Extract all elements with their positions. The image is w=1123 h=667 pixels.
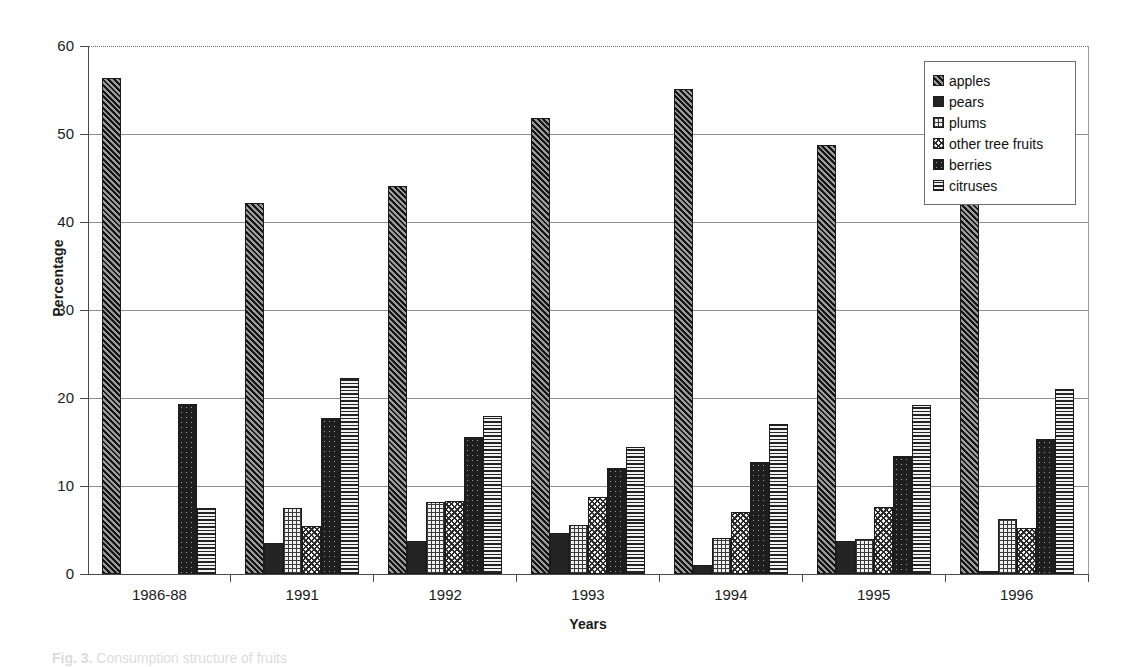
legend-label: citruses (949, 179, 997, 193)
bar-apples-1991[interactable] (245, 203, 264, 574)
bar-slot (588, 46, 607, 574)
bar-slot (102, 46, 121, 574)
bar-pears-1991[interactable] (264, 543, 283, 574)
x-tick-label: 1993 (517, 586, 660, 603)
legend-label: pears (949, 95, 984, 109)
bar-other-tree-fruits-1994[interactable] (731, 512, 750, 574)
bar-berries-1992[interactable] (464, 437, 483, 574)
bar-plums-1991[interactable] (283, 508, 302, 574)
bar-apples-1995[interactable] (817, 145, 836, 574)
bar-slot (445, 46, 464, 574)
bar-apples-1992[interactable] (388, 186, 407, 574)
legend-label: apples (949, 74, 990, 88)
bar-citruses-1991[interactable] (340, 378, 359, 574)
x-axis-title: Years (88, 616, 1088, 632)
legend-item-berries[interactable]: berries (933, 154, 1069, 175)
bar-berries-1994[interactable] (750, 462, 769, 574)
bar-other-tree-fruits-1992[interactable] (445, 501, 464, 574)
bar-slot (197, 46, 216, 574)
bar-slot (388, 46, 407, 574)
bar-slot (302, 46, 321, 574)
bar-berries-1996[interactable] (1036, 439, 1055, 574)
bar-plums-1993[interactable] (569, 525, 588, 574)
y-tick-mark-40 (80, 222, 88, 223)
bar-slot (817, 46, 836, 574)
bar-berries-1993[interactable] (607, 468, 626, 574)
bar-slot (483, 46, 502, 574)
bar-group (88, 46, 231, 574)
y-tick-mark-60 (80, 46, 88, 47)
bar-apples-1994[interactable] (674, 89, 693, 574)
bar-apples-1986-88[interactable] (102, 78, 121, 574)
bar-slot (855, 46, 874, 574)
bar-plums-1995[interactable] (855, 539, 874, 574)
bar-citruses-1993[interactable] (626, 447, 645, 574)
bar-pears-1992[interactable] (407, 541, 426, 574)
bar-slot (769, 46, 788, 574)
bar-slot (140, 46, 159, 574)
bar-apples-1993[interactable] (531, 118, 550, 574)
legend-item-plums[interactable]: plums (933, 112, 1069, 133)
bar-slot (712, 46, 731, 574)
bar-other-tree-fruits-1996[interactable] (1017, 528, 1036, 574)
y-tick-label: 50 (28, 126, 74, 141)
bar-other-tree-fruits-1993[interactable] (588, 497, 607, 574)
legend-item-pears[interactable]: pears (933, 91, 1069, 112)
legend-item-apples[interactable]: apples (933, 70, 1069, 91)
y-axis-title: Percentage (50, 198, 66, 358)
x-tick-mark (802, 574, 945, 582)
bar-slot (407, 46, 426, 574)
bar-slot (836, 46, 855, 574)
bar-citruses-1995[interactable] (912, 405, 931, 574)
y-tick-mark-20 (80, 398, 88, 399)
bar-apples-1996[interactable] (960, 157, 979, 574)
x-tick-label: 1986-88 (88, 586, 231, 603)
x-tick-mark (374, 574, 517, 582)
bar-slot (569, 46, 588, 574)
y-tick-mark-30 (80, 310, 88, 311)
legend-label: berries (949, 158, 992, 172)
bar-slot (693, 46, 712, 574)
legend-item-citruses[interactable]: citruses (933, 175, 1069, 196)
bar-berries-1995[interactable] (893, 456, 912, 574)
bar-pears-1993[interactable] (550, 533, 569, 574)
bar-slot (159, 46, 178, 574)
legend-swatch-icon (933, 117, 944, 128)
bar-other-tree-fruits-1995[interactable] (874, 507, 893, 574)
y-tick-mark-50 (80, 134, 88, 135)
legend-swatch-icon (933, 159, 944, 170)
y-tick-label: 0 (28, 566, 74, 581)
bar-slot (464, 46, 483, 574)
legend-swatch-icon (933, 180, 944, 191)
figure-caption: Fig. 3. Consumption structure of fruits (52, 650, 287, 666)
bar-slot (283, 46, 302, 574)
x-tick-label: 1995 (802, 586, 945, 603)
legend-swatch-icon (933, 138, 944, 149)
bar-berries-1991[interactable] (321, 418, 340, 574)
bar-slot (626, 46, 645, 574)
bar-other-tree-fruits-1991[interactable] (302, 526, 321, 574)
bar-pears-1995[interactable] (836, 541, 855, 574)
x-tick-mark (659, 574, 802, 582)
figure-container: 0102030405060 Percentage 1986-8819911992… (0, 0, 1123, 667)
legend-swatch-icon (933, 75, 944, 86)
legend-item-other-tree-fruits[interactable]: other tree fruits (933, 133, 1069, 154)
bar-berries-1986-88[interactable] (178, 404, 197, 574)
bar-slot (893, 46, 912, 574)
x-tick-mark (231, 574, 374, 582)
figure-caption-label: Fig. 3. (52, 650, 92, 666)
legend-swatch-icon (933, 96, 944, 107)
bar-group (374, 46, 517, 574)
x-axis-tick-labels: 1986-88199119921993199419951996 (88, 586, 1088, 603)
x-tick-mark (945, 574, 1088, 582)
bar-citruses-1994[interactable] (769, 424, 788, 574)
bar-pears-1994[interactable] (693, 565, 712, 574)
bar-plums-1996[interactable] (998, 519, 1017, 574)
bar-plums-1994[interactable] (712, 538, 731, 574)
bar-plums-1992[interactable] (426, 502, 445, 574)
bar-slot (426, 46, 445, 574)
bar-citruses-1986-88[interactable] (197, 508, 216, 574)
bar-citruses-1992[interactable] (483, 416, 502, 574)
bar-slot (607, 46, 626, 574)
bar-citruses-1996[interactable] (1055, 389, 1074, 574)
